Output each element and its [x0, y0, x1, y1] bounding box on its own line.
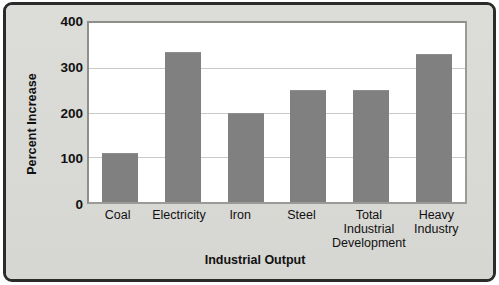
bar[interactable] [290, 90, 326, 202]
y-tick-300: 300 [37, 59, 83, 74]
bar-slot [277, 23, 340, 202]
bar-slot [152, 23, 215, 202]
chart-panel: Percent Increase 400 300 200 100 0 CoalE… [6, 5, 493, 279]
plot-area [87, 21, 467, 204]
x-tick-label-line: Industry [406, 222, 467, 236]
x-axis-tick-labels: CoalElectricityIronSteelTotalIndustrialD… [87, 208, 467, 250]
x-tick-label: Iron [210, 208, 271, 250]
bar-chart-figure: Percent Increase 400 300 200 100 0 CoalE… [0, 0, 499, 285]
x-tick-label-line: Total [332, 208, 406, 222]
x-tick-label-line: Electricity [148, 208, 209, 222]
x-tick-label: Coal [87, 208, 148, 250]
bar[interactable] [102, 153, 138, 202]
y-axis-tick-labels: 400 300 200 100 0 [33, 21, 83, 204]
bar-slot [89, 23, 152, 202]
x-tick-label-line: Coal [87, 208, 148, 222]
bar[interactable] [228, 113, 264, 203]
x-tick-label: Steel [271, 208, 332, 250]
x-tick-label-line: Steel [271, 208, 332, 222]
bar-slot [214, 23, 277, 202]
x-tick-label-line: Development [332, 236, 406, 250]
y-tick-400: 400 [37, 14, 83, 29]
x-axis-title: Industrial Output [90, 253, 420, 267]
bar-series [89, 23, 465, 202]
bar[interactable] [165, 52, 201, 202]
y-tick-100: 100 [37, 151, 83, 166]
x-tick-label: HeavyIndustry [406, 208, 467, 250]
y-tick-0: 0 [37, 197, 83, 212]
x-tick-label: Electricity [148, 208, 209, 250]
chart-outer-frame: Percent Increase 400 300 200 100 0 CoalE… [3, 2, 496, 282]
bar[interactable] [353, 90, 389, 202]
x-tick-label-line: Iron [210, 208, 271, 222]
x-tick-label-line: Heavy [406, 208, 467, 222]
y-tick-200: 200 [37, 105, 83, 120]
bar-slot [340, 23, 403, 202]
bar-slot [402, 23, 465, 202]
x-tick-label-line: Industrial [332, 222, 406, 236]
x-tick-label: TotalIndustrialDevelopment [332, 208, 406, 250]
bar[interactable] [416, 54, 452, 202]
